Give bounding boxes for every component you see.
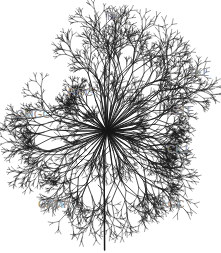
group-label-ste: STE xyxy=(172,105,194,116)
group-label-ck1: CK1 xyxy=(167,144,189,155)
group-label-rgc: RGC xyxy=(68,87,93,98)
group-label-tk: TK xyxy=(105,11,120,22)
group-label-tkl: TKL xyxy=(188,67,209,78)
group-label-camk: CAMK xyxy=(38,199,71,210)
kinome-tree-figure: TK TKL STE CK1 AGC CAMK CMGC RGC xyxy=(0,0,221,253)
group-label-agc: AGC xyxy=(160,199,185,210)
kinome-tree-canvas xyxy=(0,0,221,253)
group-label-cmgc: CMGC xyxy=(16,109,51,120)
branch-layer xyxy=(0,0,221,250)
